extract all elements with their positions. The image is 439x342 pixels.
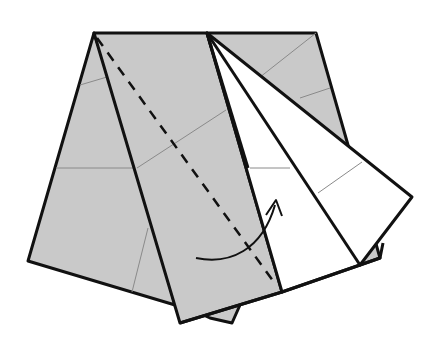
origami-diagram — [0, 0, 439, 342]
